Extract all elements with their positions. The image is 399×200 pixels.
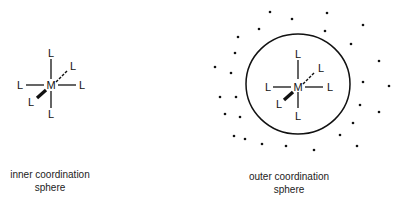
inner-caption-line2: sphere bbox=[35, 182, 66, 193]
ligand-top: L bbox=[295, 48, 301, 60]
solvent-dot bbox=[237, 36, 240, 39]
solvent-dot bbox=[362, 81, 365, 84]
solvent-dot bbox=[324, 30, 327, 33]
solvent-dot bbox=[235, 96, 238, 99]
solvent-dot bbox=[356, 145, 359, 148]
solvent-dot bbox=[388, 85, 391, 88]
ligand-upper-right: L bbox=[70, 60, 76, 72]
outer-caption-line1: outer coordination bbox=[249, 171, 329, 182]
inner-caption-line1: inner coordination bbox=[10, 169, 90, 180]
wedge-bond bbox=[284, 92, 293, 100]
solvent-dot bbox=[214, 66, 217, 69]
ligand-upper-right: L bbox=[318, 62, 324, 74]
solvent-dot bbox=[313, 149, 316, 152]
ligand-bottom: L bbox=[295, 110, 301, 122]
solvent-dot bbox=[291, 18, 294, 21]
solvent-dot bbox=[339, 134, 342, 137]
ligand-right: L bbox=[327, 81, 333, 93]
solvent-dot bbox=[326, 12, 329, 15]
solvent-dot bbox=[350, 43, 353, 46]
metal-atom: M bbox=[46, 79, 55, 91]
solvent-dot bbox=[233, 135, 236, 138]
solvent-dot bbox=[230, 72, 233, 75]
ligand-top: L bbox=[48, 47, 54, 59]
outer-caption-line2: sphere bbox=[274, 184, 305, 195]
ligand-lower-left: L bbox=[276, 98, 282, 110]
ligand-lower-left: L bbox=[28, 96, 34, 108]
coordination-sphere-diagram: M L L L L L L inner coordination sphere … bbox=[0, 0, 399, 200]
solvent-dot bbox=[269, 11, 272, 14]
solvent-dot bbox=[261, 143, 264, 146]
hashed-bond bbox=[303, 73, 314, 84]
solvent-dot bbox=[258, 28, 261, 31]
solvent-dot bbox=[224, 113, 227, 116]
ligand-right: L bbox=[79, 79, 85, 91]
metal-atom: M bbox=[293, 81, 302, 93]
solvent-dot bbox=[378, 111, 381, 114]
solvent-dot bbox=[359, 104, 362, 107]
solvent-dot bbox=[219, 96, 222, 99]
inner-complex: M L L L L L L bbox=[17, 47, 85, 120]
solvent-dot bbox=[234, 52, 237, 55]
solvent-dot bbox=[352, 122, 355, 125]
ligand-bottom: L bbox=[48, 108, 54, 120]
wedge-bond bbox=[37, 90, 46, 98]
solvent-dot bbox=[378, 60, 381, 63]
ligand-left: L bbox=[17, 79, 23, 91]
solvent-dot bbox=[285, 145, 288, 148]
solvent-dot bbox=[239, 116, 242, 119]
outer-complex: M L L L L L L bbox=[246, 34, 350, 134]
ligand-left: L bbox=[265, 81, 271, 93]
hashed-bond bbox=[56, 71, 67, 82]
solvent-dot bbox=[244, 138, 247, 141]
solvent-dot bbox=[362, 24, 365, 27]
